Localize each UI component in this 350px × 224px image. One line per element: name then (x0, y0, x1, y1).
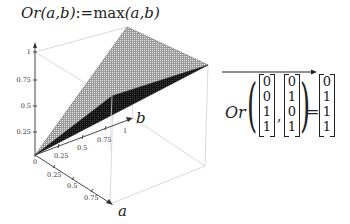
z-tick-025: 0.25 (17, 128, 31, 136)
origin-label: 0 (33, 158, 37, 166)
surface-plot-3d: 1 0.75 0.5 0.25 0 0.25 0.5 0.75 a 0.25 0… (0, 0, 222, 224)
z-axis (33, 42, 37, 157)
arg2-cell: 1 (285, 119, 299, 134)
b-tick-05: 0.5 (77, 144, 87, 152)
result-cell: 1 (320, 89, 334, 104)
z-tick-075: 0.75 (17, 76, 31, 84)
z-tick-1: 1 (27, 48, 31, 56)
b-tick-1: 1 (123, 127, 127, 135)
result-cell: 0 (320, 74, 334, 89)
arg2-cell: 1 (285, 89, 299, 104)
open-paren: ( (247, 70, 257, 140)
z-tick-05: 0.5 (21, 102, 31, 110)
b-axis-label: b (136, 109, 146, 127)
arg1-cell: 0 (260, 74, 274, 89)
equals-sign: = (306, 102, 319, 121)
a-tick-075: 0.75 (84, 194, 98, 202)
arg1-cell: 1 (260, 104, 274, 119)
a-axis-label: a (118, 202, 127, 220)
b-tick-075: 0.75 (97, 136, 111, 144)
a-tick-05: 0.5 (67, 182, 77, 190)
arg2-cell: 0 (285, 104, 299, 119)
comma: , (277, 108, 281, 124)
result-cell: 1 (320, 104, 334, 119)
arg2-cell: 0 (285, 74, 299, 89)
a-tick-025: 0.25 (47, 171, 61, 179)
arg1-cell: 0 (260, 89, 274, 104)
a-axis (35, 155, 113, 205)
b-tick-025: 0.25 (54, 152, 68, 160)
arg1-vector: 0 0 1 1 (259, 74, 275, 137)
vectorized-equation: Or ( 0 0 1 1 , 0 1 0 1 ) = 0 1 1 1 (222, 66, 350, 146)
result-cell: 1 (320, 119, 334, 134)
arg2-vector: 0 1 0 1 (284, 74, 300, 137)
result-vector: 0 1 1 1 (319, 74, 335, 137)
equation-func: Or (225, 103, 246, 122)
arg1-cell: 1 (260, 119, 274, 134)
